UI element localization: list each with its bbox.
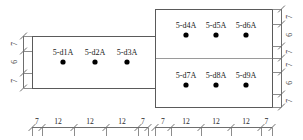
rebar-right-bottom-row-3-dot <box>243 82 248 87</box>
bottom-dim-value-5: 7 <box>141 118 145 126</box>
bottom-dim-value-7: 12 <box>182 118 190 126</box>
right-dim-value-2: 6 <box>286 33 294 37</box>
rebar-right-bottom-row-2-label: 5-d8A <box>206 72 227 80</box>
drawing-vector-layer <box>0 0 303 140</box>
bottom-dim-value-8: 12 <box>212 118 220 126</box>
bottom-dim-value-2: 12 <box>54 118 62 126</box>
right-dim-value-4: 7 <box>286 63 294 67</box>
left-dim-value-2: 6 <box>11 60 19 64</box>
left-dim-value-3: 7 <box>11 78 19 82</box>
rebar-right-bottom-row-1-label: 5-d7A <box>176 72 197 80</box>
rebar-left-row-2-label: 5-d2A <box>85 49 106 57</box>
rebar-right-top-row-3-label: 5-d6A <box>236 22 257 30</box>
rebar-left-row-1-label: 5-d1A <box>53 49 74 57</box>
rebar-right-top-row-2-dot <box>213 32 218 37</box>
rebar-right-top-row-1-label: 5-d4A <box>176 22 197 30</box>
bottom-dim-value-4: 12 <box>118 118 126 126</box>
right-dim-value-5: 6 <box>286 81 294 85</box>
rebar-right-bottom-row-1-dot <box>183 82 188 87</box>
rebar-left-row-1-dot <box>60 59 65 64</box>
bottom-dim-value-9: 12 <box>242 118 250 126</box>
rebar-right-bottom-row-2-dot <box>213 82 218 87</box>
bottom-dim-value-10: 7 <box>265 118 269 126</box>
rebar-right-top-row-1-dot <box>183 32 188 37</box>
left-dim-value-1: 7 <box>11 41 19 45</box>
right-dim-value-3: 7 <box>286 50 294 54</box>
engineering-drawing-canvas: 5-d1A5-d2A5-d3A5-d4A5-d5A5-d6A5-d7A5-d8A… <box>0 0 303 140</box>
bottom-dim-value-6: 7 <box>161 118 165 126</box>
rebar-left-row-2-dot <box>92 59 97 64</box>
rebar-right-top-row-3-dot <box>243 32 248 37</box>
rebar-right-bottom-row-3-label: 5-d9A <box>236 72 257 80</box>
rebar-left-row-3-dot <box>124 59 129 64</box>
rebar-right-top-row-2-label: 5-d5A <box>206 22 227 30</box>
bottom-dim-value-1: 7 <box>35 118 39 126</box>
right-dim-value-1: 7 <box>286 14 294 18</box>
right-dim-value-6: 7 <box>286 98 294 102</box>
bottom-dim-value-3: 12 <box>86 118 94 126</box>
rebar-left-row-3-label: 5-d3A <box>117 49 138 57</box>
